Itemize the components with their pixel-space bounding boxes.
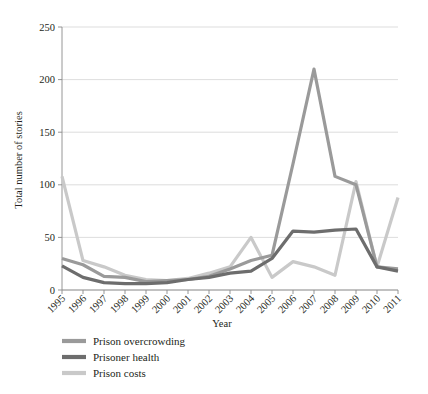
x-tick-label: 1998	[108, 293, 131, 316]
x-tick-label: 2000	[150, 293, 173, 316]
x-tick-label: 2003	[213, 293, 236, 316]
legend-label: Prisoner health	[93, 351, 160, 363]
x-tick-labels: 1995199619971998199920002001200220032004…	[45, 292, 404, 315]
chart-legend: Prison overcrowdingPrisoner healthPrison…	[62, 335, 185, 379]
x-tick-label: 2004	[234, 292, 257, 315]
legend-label: Prison costs	[93, 367, 146, 379]
y-axis-title: Total number of stories	[13, 111, 24, 209]
y-tick-label: 250	[39, 22, 55, 33]
x-tick-label: 1997	[87, 293, 110, 316]
y-tick-labels: 050100150200250	[39, 22, 55, 296]
series-lines	[62, 69, 398, 284]
y-tick-label: 50	[45, 232, 56, 243]
x-tick-label: 2007	[297, 293, 320, 316]
x-tickmarks	[62, 290, 398, 294]
x-tick-label: 2009	[339, 293, 362, 316]
x-tick-label: 1996	[66, 293, 89, 316]
x-tick-label: 2011	[381, 293, 403, 315]
chart-container: 050100150200250 199519961997199819992000…	[0, 0, 428, 394]
y-tick-label: 100	[39, 179, 55, 190]
x-tick-label: 1999	[129, 293, 152, 316]
y-tick-label: 150	[39, 127, 55, 138]
x-tick-label: 2002	[192, 293, 215, 316]
x-tick-label: 1995	[45, 293, 68, 316]
x-tick-label: 2006	[276, 293, 299, 316]
gridlines	[62, 27, 398, 290]
x-tick-label: 2005	[255, 293, 278, 316]
y-tick-label: 200	[39, 74, 55, 85]
axis-lines	[58, 27, 398, 290]
x-tick-label: 2008	[318, 293, 341, 316]
y-tick-label: 0	[50, 285, 55, 296]
legend-label: Prison overcrowding	[93, 335, 185, 347]
x-tick-label: 2010	[360, 293, 383, 316]
line-chart: 050100150200250 199519961997199819992000…	[0, 0, 428, 394]
x-axis-title: Year	[212, 318, 232, 329]
x-tick-label: 2001	[171, 293, 194, 316]
series-line	[62, 69, 398, 281]
